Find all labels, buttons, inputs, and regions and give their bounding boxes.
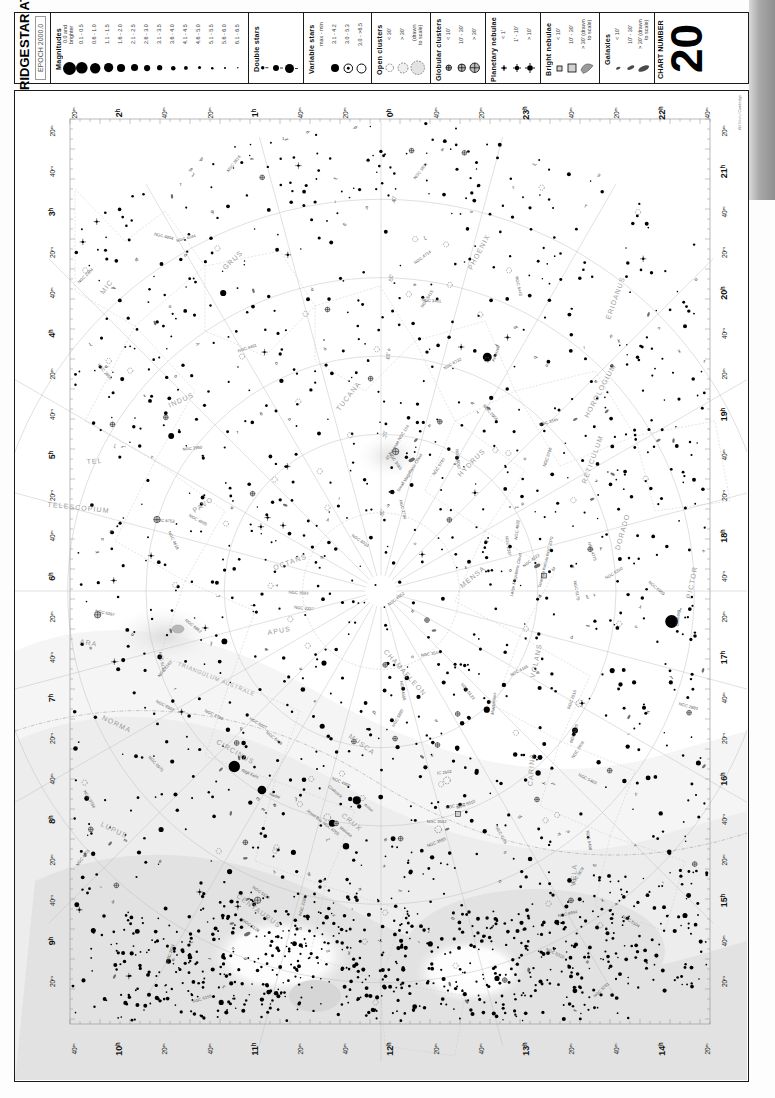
variable-star-item-0-label: 3.1 - 4.2 xyxy=(332,16,338,53)
legend-section-variable-stars: Variable stars max - min3.1 - 4.23.0 - 5… xyxy=(304,13,372,83)
svg-text:0ʰ: 0ʰ xyxy=(385,108,395,117)
svg-text:40ᵐ: 40ᵐ xyxy=(478,1043,485,1054)
galaxy-item-2-label: > 30' (drawn to scale) xyxy=(638,16,649,53)
svg-text:40ᵐ: 40ᵐ xyxy=(704,107,711,118)
variable-star-item-1-symbol xyxy=(343,55,354,81)
svg-text:1ʰ: 1ʰ xyxy=(250,108,260,117)
atlas-title: CAMBRIDGESTAR ATLAS xyxy=(17,13,33,83)
galaxy-item-2-symbol xyxy=(637,55,651,81)
svg-text:20ᵐ: 20ᵐ xyxy=(71,107,78,118)
svg-text:20ᵐ: 20ᵐ xyxy=(49,125,56,136)
svg-text:40ᵐ: 40ᵐ xyxy=(49,287,56,298)
svg-text:π: π xyxy=(101,536,105,541)
star-chart[interactable]: 20ᵐ2ʰ40ᵐ20ᵐ1ʰ40ᵐ20ᵐ0ʰ40ᵐ20ᵐ23ʰ40ᵐ20ᵐ22ʰ4… xyxy=(14,90,749,1082)
open-cluster-item-0: < 30' xyxy=(384,13,397,83)
chart-number-value: 20 xyxy=(665,13,709,83)
svg-text:ρ: ρ xyxy=(570,635,573,640)
magnitude-item-6: 2.6 - 3.0 xyxy=(141,13,154,83)
variable-stars-title: Variable stars xyxy=(307,13,316,83)
magnitude-item-2-symbol xyxy=(89,55,101,81)
planetary-nebula-item-0: < 1' xyxy=(498,13,511,83)
svg-text:40ᵐ: 40ᵐ xyxy=(49,166,56,177)
galaxies-title: Galaxies xyxy=(603,13,612,83)
magnitude-item-7: 3.1 - 3.5 xyxy=(154,13,167,83)
star-chart-canvas[interactable]: 20ᵐ2ʰ40ᵐ20ᵐ1ʰ40ᵐ20ᵐ0ʰ40ᵐ20ᵐ23ʰ40ᵐ20ᵐ22ʰ4… xyxy=(15,91,747,1080)
svg-text:TEL: TEL xyxy=(86,457,103,465)
legend-section-open-clusters: Open clusters < 30'> 30'(drawn to scale) xyxy=(372,13,431,83)
planetary-nebula-item-2: > 10' xyxy=(524,13,537,83)
open-cluster-item-1-symbol xyxy=(397,55,409,81)
globular-cluster-item-2-symbol xyxy=(469,55,481,81)
legend-section-galaxies: Galaxies < 10'10' - 30'> 30' (drawn to s… xyxy=(600,13,655,83)
svg-text:40ᵐ: 40ᵐ xyxy=(49,652,56,663)
magnitude-item-13: 6.1 - 6.5 xyxy=(232,13,245,83)
svg-text:π: π xyxy=(298,667,303,671)
svg-text:18ʰ: 18ʰ xyxy=(719,529,729,543)
variable-stars-header: max - min xyxy=(316,13,329,83)
svg-text:40ᵐ: 40ᵐ xyxy=(71,1043,78,1054)
svg-text:8ʰ: 8ʰ xyxy=(47,815,57,824)
open-cluster-item-0-symbol xyxy=(385,55,395,81)
magnitude-item-12-symbol xyxy=(223,55,227,81)
svg-text:16ʰ: 16ʰ xyxy=(719,772,729,786)
bright-nebula-item-1-symbol xyxy=(567,55,577,81)
svg-text:40ᵐ: 40ᵐ xyxy=(721,692,728,703)
svg-text:4ʰ: 4ʰ xyxy=(47,329,57,338)
galaxy-item-0: < 10' xyxy=(612,13,625,83)
magnitude-item-10-symbol xyxy=(197,55,202,81)
magnitude-item-4-symbol xyxy=(116,55,126,81)
planetary-nebula-item-2-symbol xyxy=(524,55,536,81)
epoch-label: EPOCH 2000.0 xyxy=(35,16,46,80)
planetary-nebula-item-2-label: > 10' xyxy=(527,16,533,53)
open-cluster-item-1-label: > 30' xyxy=(400,16,406,53)
svg-text:40ᵐ: 40ᵐ xyxy=(721,814,728,825)
planetary-nebula-item-0-label: < 1' xyxy=(501,16,507,53)
svg-text:20ʰ: 20ʰ xyxy=(719,286,729,300)
svg-text:20ᵐ: 20ᵐ xyxy=(721,976,728,987)
svg-text:NGC 3532: NGC 3532 xyxy=(427,819,447,824)
svg-text:20ᵐ: 20ᵐ xyxy=(49,490,56,501)
svg-text:10ʰ: 10ʰ xyxy=(114,1042,124,1056)
magnitude-item-2: 0.6 - 1.0 xyxy=(89,13,102,83)
magnitude-item-8: 3.6 - 4.0 xyxy=(167,13,180,83)
variable-stars-header-label: max - min xyxy=(319,16,325,53)
svg-text:40ᵐ: 40ᵐ xyxy=(568,107,575,118)
svg-text:40ᵐ: 40ᵐ xyxy=(721,935,728,946)
svg-text:15ʰ: 15ʰ xyxy=(719,893,729,907)
bright-nebula-item-0-label: < 10' xyxy=(556,16,562,53)
bright-nebula-item-1: 10' - 30' xyxy=(566,13,579,83)
galaxy-item-1-label: 10' - 30' xyxy=(628,16,634,53)
planetary-nebula-item-1: 1' - 10' xyxy=(511,13,524,83)
svg-text:40ᵐ: 40ᵐ xyxy=(161,107,168,118)
bright-nebula-item-2: > 30' (drawn to scale) xyxy=(579,13,596,83)
svg-text:7ʰ: 7ʰ xyxy=(47,693,57,702)
variable-star-item-0-symbol xyxy=(330,55,340,81)
svg-text:9ʰ: 9ʰ xyxy=(47,936,57,945)
magnitude-item-10: 4.6 - 5.0 xyxy=(193,13,206,83)
globular-cluster-item-0: < 10' xyxy=(443,13,456,83)
svg-text:-80°: -80° xyxy=(380,508,385,517)
legend-section-chart-number: CHART NUMBER 20 xyxy=(655,13,710,83)
globular-clusters-title: Globular clusters xyxy=(434,13,443,83)
svg-text:20ᵐ: 20ᵐ xyxy=(49,976,56,987)
magnitude-item-1-symbol xyxy=(75,55,89,81)
magnitude-item-3: 1.1 - 1.5 xyxy=(102,13,115,83)
globular-cluster-item-1-label: 10' - 30' xyxy=(459,16,465,53)
magnitude-item-8-label: 3.6 - 4.0 xyxy=(170,16,176,53)
open-cluster-item-2-label: (drawn to scale) xyxy=(412,16,423,53)
magnitude-item-0-label: 0.0 and brighter xyxy=(63,16,74,53)
variable-star-item-1-label: 3.0 - 5.3 xyxy=(345,16,351,53)
magnitude-item-9-label: 4.1 - 4.5 xyxy=(183,16,189,53)
globular-cluster-item-2: > 30' xyxy=(469,13,482,83)
svg-text:20ᵐ: 20ᵐ xyxy=(704,1043,711,1054)
magnitude-item-8-symbol xyxy=(170,55,177,81)
svg-text:20ᵐ: 20ᵐ xyxy=(721,490,728,501)
svg-text:3ʰ: 3ʰ xyxy=(47,207,57,216)
svg-text:σ: σ xyxy=(172,957,175,962)
svg-text:22ʰ: 22ʰ xyxy=(657,106,667,120)
svg-text:-40°: -40° xyxy=(392,195,397,204)
svg-text:20ᵐ: 20ᵐ xyxy=(721,247,728,258)
variable-star-item-1: 3.0 - 5.3 xyxy=(342,13,355,83)
double-stars-title: Double stars xyxy=(252,13,261,83)
svg-text:14ʰ: 14ʰ xyxy=(657,1042,667,1056)
